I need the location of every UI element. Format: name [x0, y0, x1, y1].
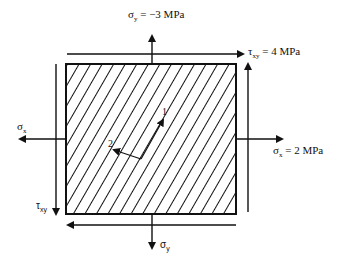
- tau-xy-left-label: τxy: [36, 201, 47, 211]
- sigma-x-right-label: σx = 2 MPa: [273, 145, 323, 156]
- axis-1-label: 1: [162, 107, 167, 117]
- tau-xy-top-label: τxy = 4 MPa: [248, 46, 300, 57]
- sigma-x-left-label: σx: [17, 121, 26, 132]
- stress-element-diagram: [0, 0, 340, 262]
- sigma-y-top-label: σy = −3 MPa: [128, 9, 184, 20]
- hatched-element: [66, 64, 236, 214]
- sigma-y-bottom-label: σy: [160, 240, 170, 250]
- axis-2-label: 2: [108, 139, 113, 149]
